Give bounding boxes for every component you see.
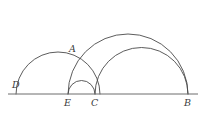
semicircle-CB-path [95, 48, 188, 95]
semicircle-EC-path [68, 81, 95, 95]
geometry-figure: D E C B A [0, 0, 205, 118]
semicircle-EB-path [68, 34, 188, 94]
semicircle-DC-path [16, 52, 100, 94]
point-label-A: A [69, 44, 76, 54]
point-label-B: B [184, 98, 191, 108]
point-label-E: E [64, 98, 71, 108]
point-label-D: D [12, 80, 20, 90]
figure-canvas [0, 0, 205, 118]
point-label-C: C [91, 98, 98, 108]
